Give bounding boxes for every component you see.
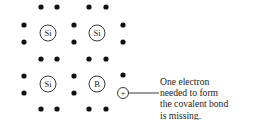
annotation-line: the covalent bond [160,98,228,109]
atom-label-b: B [94,79,100,89]
missing-electron-annotation: One electron needed to form the covalent… [160,76,228,120]
annotation-line: needed to form [160,87,228,98]
atom-label-si-1: Si [44,28,52,38]
atom-label-si-2: Si [93,28,101,38]
annotation-line: is missing. [160,110,228,120]
electron-dots [21,4,125,111]
annotation-line: One electron [160,76,228,87]
hole-plus-icon: + [121,89,126,98]
atom-label-si-3: Si [44,79,52,89]
